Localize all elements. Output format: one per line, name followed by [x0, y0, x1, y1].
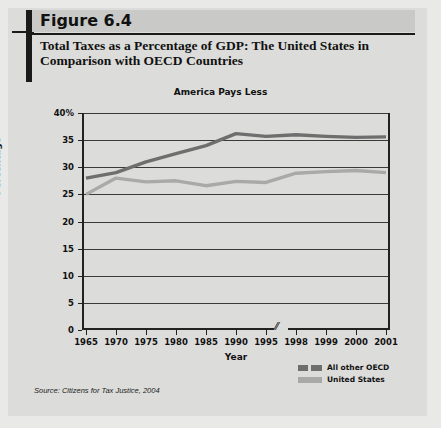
source-note: Source: Citizens for Tax Justice, 2004 — [34, 386, 160, 395]
figure-page: Figure 6.4 Total Taxes as a Percentage o… — [0, 0, 441, 428]
series-line — [86, 171, 386, 195]
legend-label: United States — [327, 375, 385, 384]
legend-item: United States — [298, 375, 389, 384]
legend-item: All other OECD — [298, 363, 389, 372]
axis-break-icon: // — [274, 321, 277, 331]
legend-swatch — [298, 365, 322, 371]
legend-label: All other OECD — [327, 363, 389, 372]
chart-legend: All other OECDUnited States — [298, 363, 389, 387]
legend-swatch — [298, 377, 322, 383]
